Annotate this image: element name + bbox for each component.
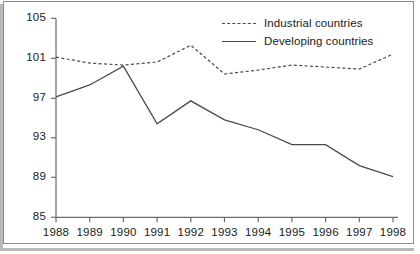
y-axis-ticks <box>51 18 56 217</box>
x-tick-label-1996: 1996 <box>310 226 342 238</box>
solid-line-key-icon <box>222 36 256 46</box>
y-tick-label-97: 97 <box>18 91 46 103</box>
y-tick-label-89: 89 <box>18 170 46 182</box>
x-tick-label-1995: 1995 <box>276 226 308 238</box>
legend-label-industrial-countries: Industrial countries <box>264 17 363 29</box>
x-tick-label-1990: 1990 <box>107 226 139 238</box>
x-tick-label-1997: 1997 <box>343 226 375 238</box>
x-tick-label-1998: 1998 <box>377 226 409 238</box>
dashed-line-key-icon <box>222 18 256 28</box>
y-tick-label-93: 93 <box>18 130 46 142</box>
x-tick-label-1988: 1988 <box>40 226 72 238</box>
series-line-developing-countries <box>56 66 393 176</box>
chart-legend: Industrial countries Developing countrie… <box>222 14 402 50</box>
x-tick-label-1991: 1991 <box>141 226 173 238</box>
y-tick-label-101: 101 <box>18 51 46 63</box>
x-tick-label-1994: 1994 <box>242 226 274 238</box>
legend-item-industrial-countries: Industrial countries <box>222 14 402 31</box>
y-tick-label-85: 85 <box>18 210 46 222</box>
x-tick-label-1993: 1993 <box>209 226 241 238</box>
y-tick-label-105: 105 <box>18 11 46 23</box>
x-axis-ticks <box>56 217 393 222</box>
legend-item-developing-countries: Developing countries <box>222 32 402 49</box>
x-tick-label-1989: 1989 <box>74 226 106 238</box>
figure-container: 105 101 97 93 89 85 1988 1989 1990 1991 … <box>0 0 420 254</box>
x-tick-label-1992: 1992 <box>175 226 207 238</box>
legend-label-developing-countries: Developing countries <box>264 35 373 47</box>
